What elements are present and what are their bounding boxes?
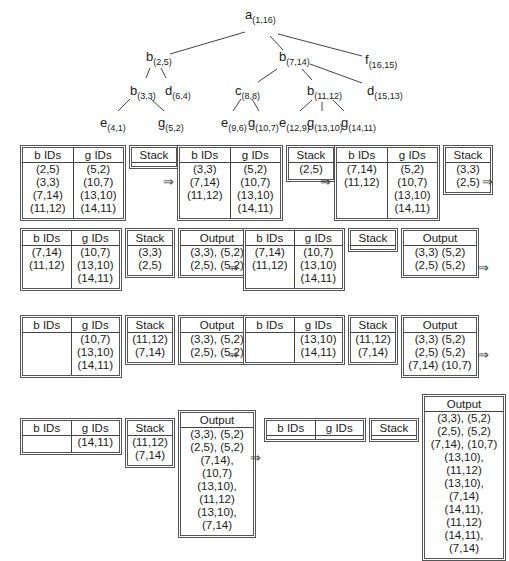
cell: [23, 285, 71, 288]
step-3: b IDsg IDs(7,14)(5,2)(11,12)(10,7)(13,10…: [334, 145, 496, 221]
cell: (14,11): [294, 272, 342, 285]
tree-edge: [258, 69, 277, 82]
cell: (13,10), (7,14): [181, 506, 253, 535]
stack-table: Stack(3,3)(2,5): [125, 228, 175, 278]
node-interval: (13,10): [314, 123, 343, 133]
column-header: Stack: [372, 421, 416, 436]
next-step-arrow-icon: ⇒: [320, 174, 331, 189]
cell: (13,10): [230, 189, 280, 202]
cell: [404, 372, 476, 375]
cell: (13,10): [387, 189, 437, 202]
ids-table: b IDsg IDs(7,14)(5,2)(11,12)(10,7)(13,10…: [334, 145, 440, 221]
column-header: b IDs: [246, 231, 294, 246]
tree-node-c: c(8,8): [235, 84, 260, 101]
node-interval: (6,4): [172, 91, 191, 101]
cell: [315, 436, 363, 439]
stack-table: Stack(11,12)(7,14): [348, 315, 398, 365]
tree-edge: [161, 68, 166, 78]
cell: (2,5) (5,2): [404, 259, 476, 272]
step-4: b IDsg IDs(7,14)(10,7)(11,12)(13,10)(14,…: [20, 228, 259, 291]
ids-table: b IDsg IDs(14,11): [20, 418, 122, 455]
cell: [351, 246, 395, 249]
cell: [294, 359, 342, 362]
column-header: Output: [181, 413, 253, 428]
cell: [23, 346, 71, 359]
tree-node-e96: e(9,6): [221, 116, 247, 133]
cell: (2,5), (5,2): [181, 441, 253, 454]
output-table: Output(3,3), (5,2)(2,5), (5,2)(7,14), (1…: [178, 410, 256, 538]
step-8: b IDsg IDs(14,11)Stack(11,12)(7,14)Outpu…: [20, 418, 259, 538]
cell: (3,3) (5,2): [404, 333, 476, 347]
column-header: Stack: [289, 148, 333, 163]
cell: (13,10): [294, 333, 342, 347]
tree-node-g1411: g(14,11): [341, 116, 376, 133]
cell: (10,7): [387, 176, 437, 189]
ids-table: b IDsg IDs(7,14)(10,7)(11,12)(13,10)(14,…: [243, 228, 345, 291]
cell: (3,3): [180, 163, 230, 177]
cell: (11,12): [128, 333, 172, 346]
tree-node-e41: e(4,1): [100, 116, 126, 133]
cell: (2,5), (5,2): [425, 425, 503, 438]
column-header: g IDs: [71, 231, 119, 246]
ids-table: b IDsg IDs(3,3)(5,2)(7,14)(10,7)(11,12)(…: [177, 145, 283, 221]
stack-table: Stack(11,12)(7,14): [125, 418, 175, 468]
cell: (3,3) (5,2): [404, 246, 476, 260]
next-step-arrow-icon: ⇒: [228, 347, 239, 362]
cell: [71, 372, 119, 375]
step-1: b IDsg IDs(2,5)(5,2)(3,3)(10,7)(7,14)(13…: [20, 145, 182, 221]
stack-table: Stack: [129, 145, 179, 169]
cell: (2,5) (5,2): [404, 346, 476, 359]
tree-node-e129: e(12,9): [279, 116, 310, 133]
cell: (13,10): [294, 259, 342, 272]
cell: (11,12): [246, 259, 294, 272]
step-9: b IDsg IDsStackOutput(3,3), (5,2)(2,5), …: [264, 418, 509, 561]
cell: [337, 189, 387, 202]
next-step-arrow-icon: ⇒: [163, 174, 174, 189]
cell: (14,11): [71, 436, 119, 450]
tree-edge: [270, 36, 283, 50]
cell: (7,14): [23, 246, 71, 260]
cell: (11,12): [23, 202, 73, 218]
tree-node-g52: g(5,2): [158, 116, 184, 133]
cell: [23, 372, 71, 375]
cell: (11,12): [337, 176, 387, 189]
cell: [71, 285, 119, 288]
column-header: b IDs: [23, 318, 71, 333]
node-interval: (2,5): [153, 57, 172, 67]
cell: (7,14): [128, 346, 172, 362]
ids-table: b IDsg IDs(7,14)(10,7)(11,12)(13,10)(14,…: [20, 228, 122, 291]
column-header: Output: [404, 231, 476, 246]
cell: (10,7): [294, 246, 342, 260]
cell: [246, 285, 294, 288]
cell: (7,14), (10,7): [425, 438, 503, 451]
cell: [246, 346, 294, 359]
tree-node-b714: b(7,14): [279, 50, 310, 67]
cell: (14,11): [387, 202, 437, 218]
cell: (5,2): [387, 163, 437, 177]
step-5: b IDsg IDs(7,14)(10,7)(11,12)(13,10)(14,…: [243, 228, 482, 291]
cell: (14,11): [71, 272, 119, 285]
tree-edge: [310, 64, 362, 83]
cell: [294, 285, 342, 288]
cell: (10,7): [73, 176, 123, 189]
cell: [71, 449, 119, 452]
cell: (13,10), (7,14): [425, 477, 503, 503]
cell: [132, 163, 176, 166]
tree-node-g107: g(10,7): [248, 116, 279, 133]
cell: (7,14): [351, 346, 395, 362]
cell: (3,3): [23, 176, 73, 189]
cell: (5,2): [230, 163, 280, 177]
column-header: b IDs: [23, 148, 73, 163]
node-interval: (15,13): [374, 91, 403, 101]
stack-table: Stack: [348, 228, 398, 252]
node-interval: (5,2): [165, 123, 184, 133]
cell: [267, 436, 315, 439]
cell: (13,10): [73, 189, 123, 202]
node-interval: (9,6): [228, 123, 247, 133]
column-header: g IDs: [71, 318, 119, 333]
ids-table: b IDsg IDs: [264, 418, 366, 442]
column-header: b IDs: [23, 421, 71, 436]
node-interval: (10,7): [255, 123, 279, 133]
cell: (11,12): [351, 333, 395, 346]
column-header: Stack: [128, 318, 172, 333]
